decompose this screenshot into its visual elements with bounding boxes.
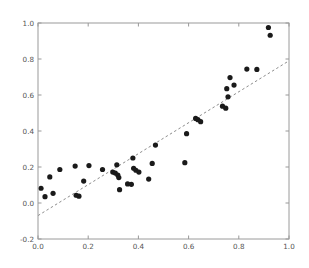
- x-tick-label: 0.0: [32, 242, 44, 251]
- scatter-point: [223, 106, 228, 111]
- scatter-point: [57, 167, 62, 172]
- y-tick-label: 1.0: [23, 19, 35, 28]
- scatter-point: [117, 187, 122, 192]
- axes-area: 0.00.20.40.60.81.0 -0.20.00.20.40.60.81.…: [20, 19, 295, 251]
- axes-background: [38, 23, 289, 239]
- scatter-point: [198, 119, 203, 124]
- scatter-point: [153, 142, 158, 147]
- scatter-point: [129, 182, 134, 187]
- scatter-point: [100, 167, 105, 172]
- y-tick-label: 0.8: [23, 55, 35, 64]
- x-tick-label: 0.8: [233, 242, 245, 251]
- scatter-point: [86, 163, 91, 168]
- scatter-point: [266, 25, 271, 30]
- scatter-point: [231, 83, 236, 88]
- scatter-point: [73, 164, 78, 169]
- scatter-point: [47, 174, 52, 179]
- scatter-plot: 0.00.20.40.60.81.0 -0.20.00.20.40.60.81.…: [0, 0, 309, 268]
- scatter-point: [150, 161, 155, 166]
- matplotlib-figure: 0.00.20.40.60.81.0 -0.20.00.20.40.60.81.…: [0, 0, 309, 268]
- scatter-point: [42, 194, 47, 199]
- scatter-point: [254, 67, 259, 72]
- scatter-point: [50, 191, 55, 196]
- y-tick-label: 0.4: [23, 127, 35, 136]
- scatter-point: [182, 160, 187, 165]
- y-tick-label: 0.0: [23, 199, 35, 208]
- scatter-point: [136, 169, 141, 174]
- scatter-point: [184, 131, 189, 136]
- scatter-point: [268, 33, 273, 38]
- scatter-point: [81, 178, 86, 183]
- y-tick-label: 0.2: [23, 163, 34, 172]
- scatter-point: [114, 162, 119, 167]
- scatter-point: [225, 94, 230, 99]
- x-tick-label: 0.6: [183, 242, 195, 251]
- x-tick-label: 1.0: [283, 242, 295, 251]
- y-tick-label: -0.2: [20, 235, 34, 244]
- scatter-point: [116, 175, 121, 180]
- x-tick-label: 0.2: [82, 242, 93, 251]
- scatter-point: [76, 194, 81, 199]
- scatter-point: [224, 86, 229, 91]
- scatter-point: [146, 176, 151, 181]
- scatter-point: [227, 75, 232, 80]
- y-tick-label: 0.6: [23, 91, 35, 100]
- scatter-point: [38, 186, 43, 191]
- scatter-point: [244, 66, 249, 71]
- x-tick-label: 0.4: [133, 242, 145, 251]
- scatter-point: [130, 155, 135, 160]
